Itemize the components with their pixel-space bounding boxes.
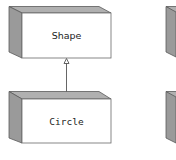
class-label-shape: Shape [52, 30, 82, 41]
hollow-triangle-arrow-icon [64, 59, 69, 64]
class-box-partial-bottom-right[interactable] [166, 92, 176, 144]
diagram-canvas: Shape Circle [0, 0, 176, 160]
box-side-face [166, 7, 176, 58]
box-side-face [9, 7, 22, 59]
box-top-face [9, 92, 111, 100]
class-box-partial-top-right[interactable] [166, 7, 176, 58]
class-box-circle[interactable]: Circle [9, 92, 111, 144]
generalization-edge [64, 59, 69, 93]
box-side-face [166, 92, 176, 144]
box-top-face [9, 7, 111, 14]
class-box-shape[interactable]: Shape [9, 7, 111, 59]
box-side-face [9, 92, 22, 144]
class-label-circle: Circle [49, 116, 84, 127]
